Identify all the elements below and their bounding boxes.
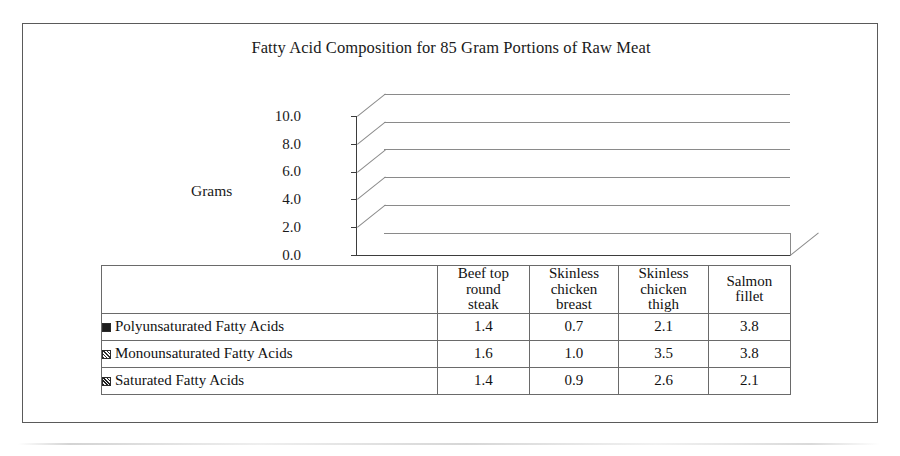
table-row: Polyunsaturated Fatty Acids 1.4 0.7 2.1 … bbox=[102, 313, 791, 340]
y-tick-label-4: 4.0 bbox=[247, 192, 301, 207]
floor-depth-edge bbox=[790, 233, 819, 256]
y-axis-title: Grams bbox=[191, 182, 232, 200]
legend-swatch-icon-monounsaturated bbox=[102, 350, 111, 359]
table-row: Monounsaturated Fatty Acids 1.6 1.0 3.5 … bbox=[102, 340, 791, 367]
value-axis-line bbox=[356, 116, 357, 255]
category-line: Skinless bbox=[619, 266, 708, 282]
category-header-beef-top-round-steak: Beef top round steak bbox=[438, 266, 530, 314]
y-tick-label-10: 10.0 bbox=[247, 109, 301, 124]
floor-front-edge bbox=[356, 255, 790, 256]
table-row-categories: Beef top round steak Skinless chicken br… bbox=[102, 266, 791, 314]
cell-sat-chicken-thigh: 2.6 bbox=[619, 367, 709, 394]
tick-mark-8 bbox=[351, 144, 357, 145]
category-header-salmon-fillet: Salmon fillet bbox=[708, 266, 790, 314]
gridline-6 bbox=[384, 177, 790, 178]
depth-slope-6 bbox=[357, 150, 386, 173]
gridline-10 bbox=[384, 122, 790, 123]
cell-sat-salmon: 2.1 bbox=[708, 367, 790, 394]
table-corner-blank bbox=[102, 266, 438, 314]
cell-poly-salmon: 3.8 bbox=[708, 313, 790, 340]
tick-mark-2 bbox=[351, 227, 357, 228]
tick-mark-10 bbox=[351, 116, 357, 117]
gridline-8 bbox=[384, 149, 790, 150]
legend-label-polyunsaturated: Polyunsaturated Fatty Acids bbox=[115, 318, 284, 334]
legend-row-saturated[interactable]: Saturated Fatty Acids bbox=[102, 367, 438, 394]
cell-mono-beef: 1.6 bbox=[438, 340, 530, 367]
gridline-top bbox=[384, 94, 790, 95]
legend-swatch-icon-polyunsaturated bbox=[102, 323, 111, 332]
legend-label-saturated: Saturated Fatty Acids bbox=[115, 372, 244, 388]
category-line: thigh bbox=[619, 297, 708, 313]
depth-slope-10 bbox=[357, 94, 386, 117]
gridline-4 bbox=[384, 205, 790, 206]
depth-slope-8 bbox=[357, 122, 386, 145]
y-tick-label-2: 2.0 bbox=[247, 220, 301, 235]
cell-sat-chicken-breast: 0.9 bbox=[529, 367, 619, 394]
gridline-2 bbox=[384, 233, 790, 234]
legend-label-monounsaturated: Monounsaturated Fatty Acids bbox=[115, 345, 292, 361]
cell-poly-chicken-thigh: 2.1 bbox=[619, 313, 709, 340]
category-line: breast bbox=[530, 297, 619, 313]
category-header-skinless-chicken-breast: Skinless chicken breast bbox=[529, 266, 619, 314]
category-line: fillet bbox=[709, 289, 790, 305]
category-line: Skinless bbox=[530, 266, 619, 282]
legend-row-monounsaturated[interactable]: Monounsaturated Fatty Acids bbox=[102, 340, 438, 367]
category-line: Salmon bbox=[709, 274, 790, 290]
tick-mark-4 bbox=[351, 199, 357, 200]
y-tick-label-0: 0.0 bbox=[247, 248, 301, 263]
cell-poly-beef: 1.4 bbox=[438, 313, 530, 340]
cell-mono-chicken-thigh: 3.5 bbox=[619, 340, 709, 367]
tick-mark-6 bbox=[351, 172, 357, 173]
category-line: chicken bbox=[530, 282, 619, 298]
scan-artifact-line bbox=[18, 443, 880, 445]
category-line: Beef top bbox=[438, 266, 529, 282]
cell-sat-beef: 1.4 bbox=[438, 367, 530, 394]
chart-data-table: Beef top round steak Skinless chicken br… bbox=[101, 265, 791, 395]
category-line: chicken bbox=[619, 282, 708, 298]
depth-slope-2 bbox=[357, 205, 386, 228]
depth-slope-4 bbox=[357, 177, 386, 200]
cell-mono-salmon: 3.8 bbox=[708, 340, 790, 367]
y-tick-label-8: 8.0 bbox=[247, 137, 301, 152]
cell-poly-chicken-breast: 0.7 bbox=[529, 313, 619, 340]
legend-swatch-icon-saturated bbox=[102, 377, 111, 386]
category-header-skinless-chicken-thigh: Skinless chicken thigh bbox=[619, 266, 709, 314]
legend-row-polyunsaturated[interactable]: Polyunsaturated Fatty Acids bbox=[102, 313, 438, 340]
table-row: Saturated Fatty Acids 1.4 0.9 2.6 2.1 bbox=[102, 367, 791, 394]
category-line: steak bbox=[438, 297, 529, 313]
y-tick-label-6: 6.0 bbox=[247, 164, 301, 179]
cell-mono-chicken-breast: 1.0 bbox=[529, 340, 619, 367]
figure-frame: Fatty Acid Composition for 85 Gram Porti… bbox=[22, 23, 878, 423]
category-line: round bbox=[438, 282, 529, 298]
